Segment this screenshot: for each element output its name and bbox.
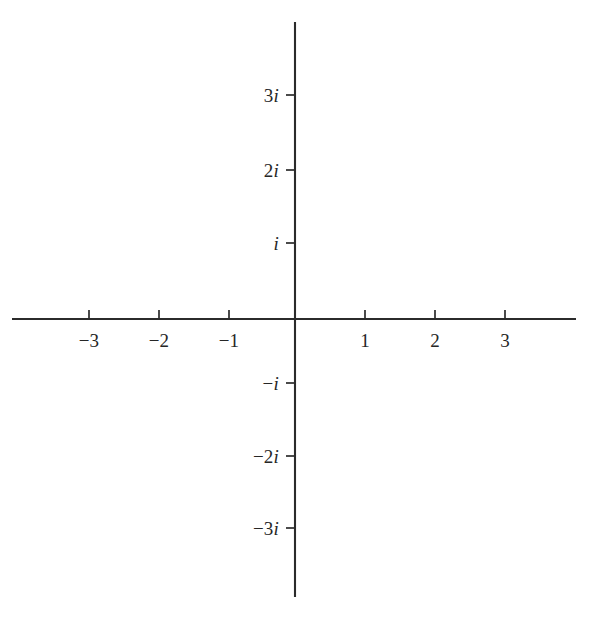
imaginary-unit-glyph: i xyxy=(274,85,279,106)
x-tick-label-1: 1 xyxy=(360,331,370,350)
x-tick-label-neg1: −1 xyxy=(219,331,240,350)
y-tick-label-coefficient: 2 xyxy=(264,160,274,181)
y-tick-label-3i: 3i xyxy=(264,86,279,105)
x-tick-label-text: −2 xyxy=(149,330,170,351)
x-tick-label-text: 2 xyxy=(430,330,440,351)
x-tick-label-text: −3 xyxy=(79,330,100,351)
x-tick-label-neg3: −3 xyxy=(79,331,100,350)
x-tick-label-text: 3 xyxy=(500,330,510,351)
imaginary-unit-glyph: i xyxy=(274,518,279,539)
y-tick-label-coefficient: − xyxy=(263,373,274,394)
imaginary-unit-glyph: i xyxy=(274,160,279,181)
y-tick-label-coefficient: −3 xyxy=(253,518,274,539)
complex-plane-figure: −3 −2 −1 1 2 3 3i 2i i −i −2i −3i xyxy=(0,0,589,618)
y-tick-label-neg-3i: −3i xyxy=(253,519,279,538)
x-tick-label-3: 3 xyxy=(500,331,510,350)
imaginary-unit-glyph: i xyxy=(274,373,279,394)
y-tick-label-coefficient: −2 xyxy=(253,446,274,467)
y-tick-label-i: i xyxy=(274,234,279,253)
x-tick-marks xyxy=(89,310,505,319)
x-tick-label-text: 1 xyxy=(360,330,370,351)
plot-canvas xyxy=(0,0,589,618)
y-tick-label-2i: 2i xyxy=(264,161,279,180)
x-tick-label-text: −1 xyxy=(219,330,240,351)
y-tick-label-neg-2i: −2i xyxy=(253,447,279,466)
y-tick-label-coefficient: 3 xyxy=(264,85,274,106)
y-tick-marks xyxy=(286,95,295,528)
x-tick-label-2: 2 xyxy=(430,331,440,350)
x-tick-label-neg2: −2 xyxy=(149,331,170,350)
imaginary-unit-glyph: i xyxy=(274,233,279,254)
y-tick-label-neg-i: −i xyxy=(263,374,279,393)
imaginary-unit-glyph: i xyxy=(274,446,279,467)
